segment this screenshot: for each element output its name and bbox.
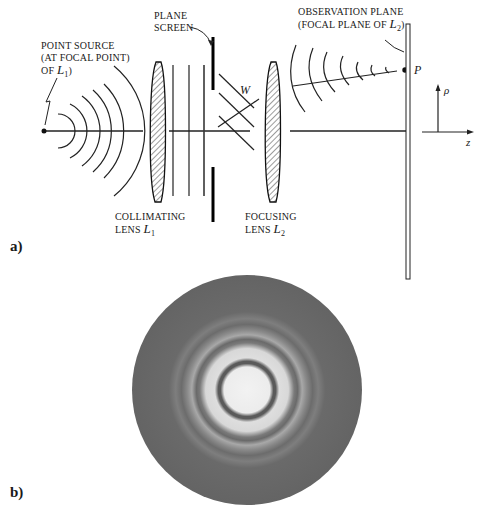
plane-screen-label: PLANE SCREEN — [154, 10, 194, 34]
point-source-dot — [42, 129, 47, 134]
paren-close: ) — [69, 65, 73, 76]
observation-leader — [385, 40, 404, 52]
text-lens: LENS — [115, 224, 144, 235]
focusing-line2: LENS L2 — [245, 223, 297, 240]
lens-subscript: 1 — [151, 229, 155, 238]
point-source-leader — [45, 78, 57, 125]
paren-close: ) — [401, 19, 405, 30]
observation-line2: (FOCAL PLANE OF L2) — [298, 18, 405, 35]
lens-symbol: L — [389, 16, 396, 31]
collimating-lens — [150, 62, 165, 202]
plane-screen-line1: PLANE — [154, 10, 194, 22]
lens-symbol: L — [144, 221, 151, 236]
panel-a-label: a) — [10, 238, 23, 255]
collimating-lens-label: COLLIMATING LENS L1 — [115, 211, 186, 240]
focusing-lens — [265, 62, 280, 202]
collimating-line2: LENS L1 — [115, 223, 186, 240]
axis-rho-label: ρ — [444, 84, 449, 96]
point-source-line3: OF L1) — [41, 64, 130, 81]
axis-z-label: z — [466, 136, 470, 148]
text-focal-plane: (FOCAL PLANE OF — [298, 19, 389, 30]
observation-plane — [406, 24, 410, 279]
text-of: OF — [41, 65, 57, 76]
observation-plane-label: OBSERVATION PLANE (FOCAL PLANE OF L2) — [298, 6, 405, 35]
tilted-wavefronts — [218, 74, 259, 150]
lens-subscript: 2 — [281, 229, 285, 238]
point-source-line1: POINT SOURCE — [41, 40, 130, 52]
focusing-lens-label: FOCUSING LENS L2 — [245, 211, 297, 240]
lens-symbol: L — [274, 221, 281, 236]
panel-b-label: b) — [10, 484, 23, 501]
point-p-label: P — [414, 64, 422, 76]
plane-screen-line2: SCREEN — [154, 22, 194, 34]
point-source-label: POINT SOURCE (AT FOCAL POINT) OF L1) — [41, 40, 130, 81]
focusing-line1: FOCUSING — [245, 211, 297, 223]
wavefront-label: W — [240, 84, 250, 96]
text-lens: LENS — [245, 224, 274, 235]
point-source-line2: (AT FOCAL POINT) — [41, 52, 130, 64]
converging-wavefronts — [291, 45, 397, 112]
